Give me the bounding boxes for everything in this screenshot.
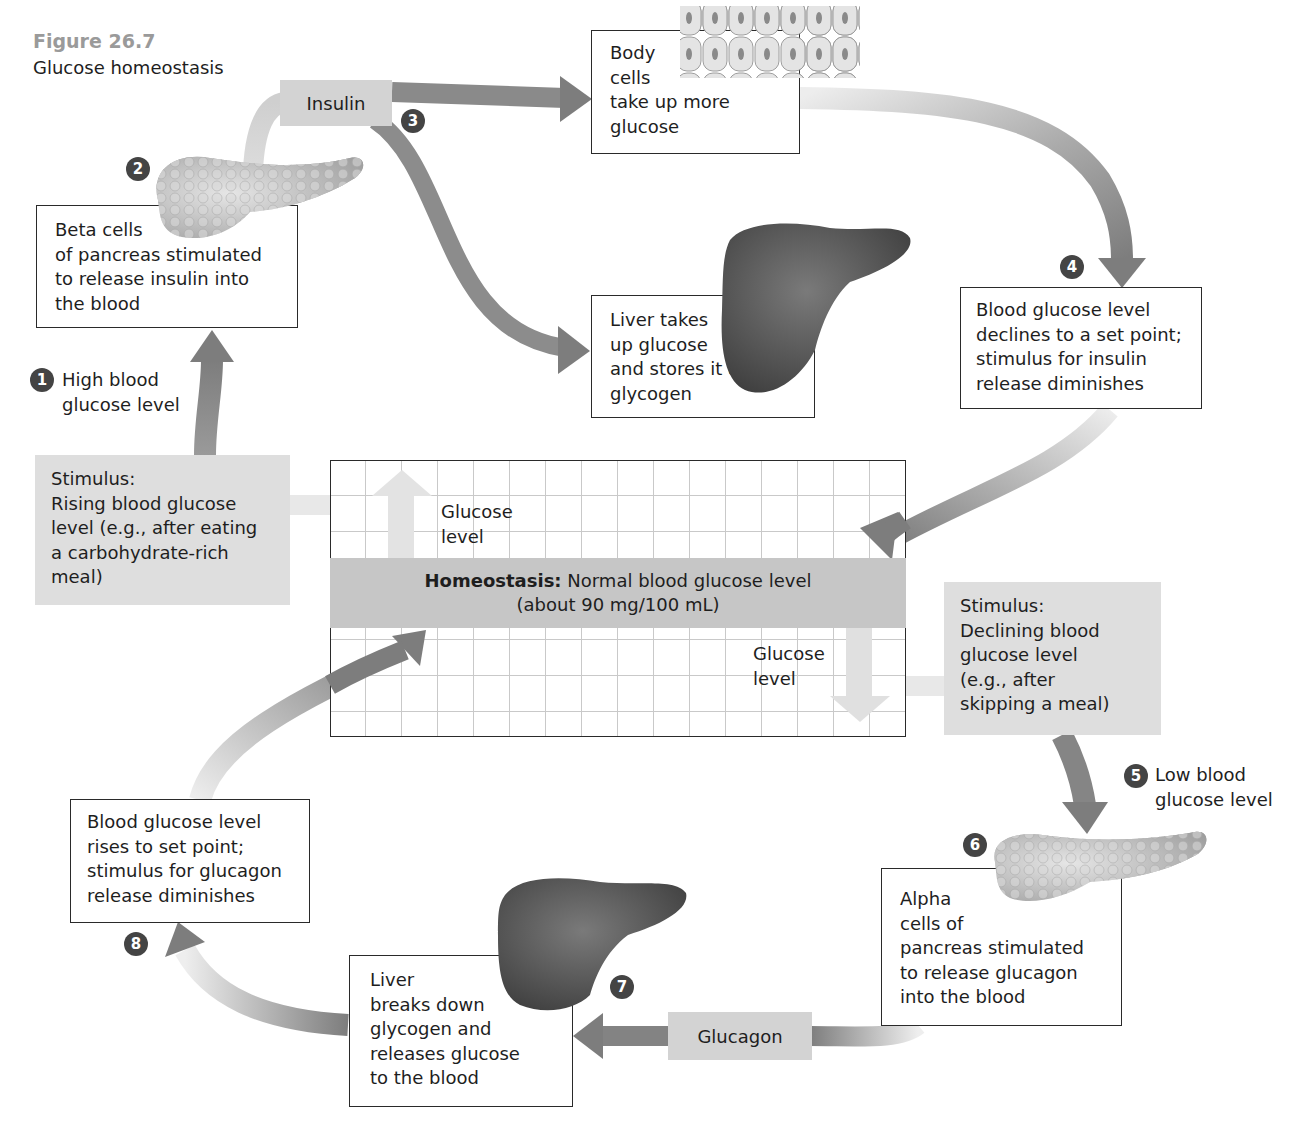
step-3-liver-box: Liver takes up glucose and stores it as … — [591, 295, 815, 418]
step-2-badge: 2 — [126, 157, 150, 181]
step-7-badge: 7 — [610, 975, 634, 999]
homeostasis-line2: (about 90 mg/100 mL) — [330, 593, 906, 617]
arrow-alpha-cells-to-glucagon — [810, 1025, 918, 1036]
step-3-badge: 3 — [401, 109, 425, 133]
step-2-beta-cells-box: Beta cells of pancreas stimulated to rel… — [36, 205, 298, 328]
figure-number: Figure 26.7 — [33, 30, 155, 52]
arrow-body-cells-to-decline — [800, 98, 1122, 260]
step-1-badge: 1 — [30, 368, 54, 392]
glucagon-tag: Glucagon — [668, 1012, 812, 1060]
glucose-up-label: Glucose level — [441, 500, 513, 549]
step-8-badge: 8 — [124, 932, 148, 956]
step-5-label: Low blood glucose level — [1155, 763, 1273, 812]
step-4-decline-box: Blood glucose level declines to a set po… — [960, 287, 1202, 409]
stimulus-declining: Stimulus: Declining blood glucose level … — [944, 582, 1161, 735]
arrow-decline-to-homeostasis — [890, 410, 1110, 540]
step-4-badge: 4 — [1060, 255, 1084, 279]
glucose-down-label: Glucose level — [753, 642, 825, 691]
homeostasis-line1: Normal blood glucose level — [567, 570, 811, 591]
arrow-insulin-to-liver — [375, 120, 565, 348]
step-6-alpha-cells-box: Alpha cells of pancreas stimulated to re… — [881, 868, 1122, 1026]
step-3-body-cells-box: Body cells take up more glucose — [591, 30, 800, 154]
arrow-stimulus-to-beta-cells — [205, 360, 212, 455]
step-7-liver-box: Liver breaks down glycogen and releases … — [349, 955, 573, 1107]
arrow-liver-to-rise — [185, 950, 348, 1025]
step-1-label: High blood glucose level — [62, 368, 180, 417]
insulin-tag: Insulin — [280, 80, 392, 126]
step-5-badge: 5 — [1124, 764, 1148, 788]
homeostasis-band: Homeostasis: Normal blood glucose level … — [330, 558, 906, 628]
arrow-declining-to-alpha-cells — [1062, 735, 1085, 805]
figure-title: Glucose homeostasis — [33, 57, 224, 78]
stimulus-rising: Stimulus: Rising blood glucose level (e.… — [35, 455, 290, 605]
homeostasis-bold-label: Homeostasis: — [425, 570, 562, 591]
step-6-badge: 6 — [963, 833, 987, 857]
step-8-rise-box: Blood glucose level rises to set point; … — [70, 799, 310, 923]
arrow-insulin-to-body-cells — [392, 92, 565, 98]
